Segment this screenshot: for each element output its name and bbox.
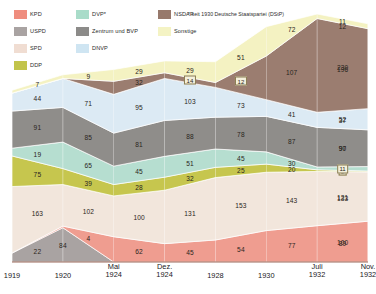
value-label-kpd-4: 54 [237,245,245,252]
value-label-dvp-2: 45 [135,168,143,175]
value-label-nsdap-7: 196 [337,65,348,72]
x-tick-line2: 1919 [4,272,20,280]
legend-swatch [158,10,171,19]
value-label-spd-7: 121 [337,193,348,200]
legend-item-dnvp: DNVP [76,44,158,61]
value-label-kpd-5: 77 [288,242,296,249]
value-label-ddp-0: 75 [34,170,42,177]
value-label-dnvp-4: 73 [237,102,245,109]
value-label-sonstige-7: 12 [339,23,347,30]
x-tick-5: 1930 [258,272,274,280]
x-tick-line2: 1932 [309,271,325,279]
x-tick-line2: 1928 [207,272,223,280]
legend-swatch [14,27,27,36]
value-label-zentrum-und-bvp-5: 87 [288,137,296,144]
value-label-dvp-1: 65 [85,162,93,169]
value-label-ddp-3: 32 [186,175,194,182]
value-label-uspd-0: 22 [34,248,42,255]
value-label-sonstige-0: 7 [36,81,40,88]
value-label-spd-4: 153 [235,202,246,209]
value-label-spd-5: 143 [286,197,297,204]
value-label-dnvp-1: 71 [85,100,93,107]
value-label-zentrum-und-bvp-1: 85 [85,134,93,141]
legend-item-label: Sonstige [174,27,197,34]
legend-item-label: DVP* [92,10,106,17]
value-label-zentrum-und-bvp-2: 81 [135,141,143,148]
chart-legend: KPDDVP*NSDAPUSPDZentrum und BVPSonstigeS… [14,10,244,78]
x-tick-7: Nov.1932 [360,263,376,280]
legend-item-ddp: DDP [14,61,76,78]
x-tick-line2: 1930 [258,272,274,280]
value-label-uspd-1: 84 [59,241,67,248]
legend-item-zentrum-und-bvp: Zentrum und BVP [76,27,158,44]
x-tick-3: Dez.1924 [156,263,172,280]
value-label-dnvp-2: 95 [135,103,143,110]
x-tick-0: 1919 [4,272,20,280]
value-label-zentrum-und-bvp-3: 88 [186,132,194,139]
value-label-zentrum-und-bvp-7: 90 [339,145,347,152]
x-axis-labels: 19191920Mai1924Dez.192419281930Juli1932N… [0,263,374,293]
legend-item-spd: SPD [14,44,76,61]
value-label-nsdap-4: 12 [235,77,247,86]
value-label-nsdap-2: 32 [135,78,143,85]
legend-item-label: SPD [30,44,42,51]
value-label-dvp-0: 19 [34,150,42,157]
value-label-dnvp-7: 52 [339,116,347,123]
legend-item-label: KPD [30,10,42,17]
value-label-dvp-7: 11 [337,164,349,173]
legend-item-uspd: USPD [14,27,76,44]
legend-swatch [76,10,89,19]
value-label-spd-2: 100 [133,213,144,220]
legend-swatch [14,61,27,70]
x-tick-line2: 1920 [55,272,71,280]
legend-item-label: USPD [30,27,46,34]
value-label-dnvp-0: 44 [34,94,42,101]
legend-item-kpd: KPD [14,10,76,27]
value-label-kpd-3: 45 [186,248,194,255]
legend-item-label: DDP [30,61,42,68]
value-label-spd-3: 131 [184,209,195,216]
legend-swatch [76,44,89,53]
x-tick-4: 1928 [207,272,223,280]
value-label-dvp-5: 30 [288,160,296,167]
value-label-ddp-5: 20 [288,166,296,173]
x-tick-line2: 1924 [105,271,121,279]
legend-item-sonstige: Sonstige [158,27,244,44]
value-label-ddp-1: 39 [85,180,93,187]
legend-swatch [158,27,171,36]
value-label-zentrum-und-bvp-0: 91 [34,124,42,131]
value-label-dvp-4: 45 [237,155,245,162]
value-label-spd-1: 102 [83,207,94,214]
value-label-kpd-2: 62 [135,248,143,255]
value-label-nsdap-5: 107 [286,68,297,75]
value-label-ddp-2: 28 [135,183,143,190]
legend-spacer [158,44,244,61]
x-tick-line2: 1932 [360,271,376,279]
value-label-dvp-3: 51 [186,159,194,166]
legend-spacer [76,61,158,78]
value-label-dnvp-3: 103 [184,97,195,104]
value-label-kpd-1: 4 [86,235,90,242]
value-label-ddp-4: 25 [237,167,245,174]
x-tick-1: 1920 [55,272,71,280]
legend-item-label: Zentrum und BVP [92,27,138,34]
legend-footnote: * seit 1930 Deutsche Staatspartei (DStP) [188,11,284,17]
value-label-spd-0: 163 [32,209,43,216]
value-label-kpd-7: 100 [337,238,348,245]
x-tick-line2: 1924 [156,271,172,279]
x-tick-2: Mai1924 [105,263,121,280]
legend-swatch [14,44,27,53]
value-label-dnvp-5: 41 [288,110,296,117]
legend-swatch [76,27,89,36]
legend-item-label: DNVP [92,44,108,51]
legend-spacer [158,61,244,78]
legend-item-dvp: DVP* [76,10,158,27]
legend-swatch [14,10,27,19]
value-label-sonstige-5: 72 [288,25,296,32]
x-tick-6: Juli1932 [309,263,325,280]
value-label-zentrum-und-bvp-4: 78 [237,130,245,137]
